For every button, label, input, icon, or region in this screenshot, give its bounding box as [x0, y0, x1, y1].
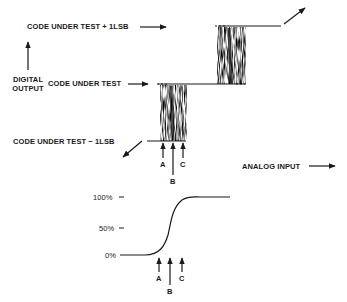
- tick-label-0: 0%: [105, 251, 116, 260]
- y-axis-label: DIGITAL OUTPUT: [11, 75, 45, 93]
- tick-label-100: 100%: [93, 193, 113, 202]
- label-code-minus-1lsb: CODE UNDER TEST − 1LSB: [13, 137, 115, 146]
- marker-a-label: A: [160, 160, 166, 169]
- y-axis-label-line2: OUTPUT: [11, 84, 45, 93]
- continuation-arrow-icon: [284, 8, 305, 24]
- y-axis-label-line1: DIGITAL: [11, 75, 45, 84]
- marker-b-label: B: [170, 177, 176, 186]
- marker-c-label: C: [180, 160, 186, 169]
- bottom-marker-b-label: B: [167, 287, 173, 296]
- bottom-marker-a-label: A: [156, 274, 162, 283]
- lower-transition-noise: [160, 85, 187, 141]
- minus-1lsb-arrow-icon: [123, 141, 142, 157]
- probability-curve: [120, 197, 230, 255]
- upper-transition-noise: [217, 27, 246, 84]
- tick-label-50: 50%: [99, 224, 114, 233]
- bottom-marker-c-label: C: [179, 274, 185, 283]
- x-axis-label: ANALOG INPUT: [242, 162, 300, 171]
- label-code-plus-1lsb: CODE UNDER TEST + 1LSB: [27, 22, 129, 31]
- label-code-under-test: CODE UNDER TEST: [48, 79, 121, 88]
- diagram-canvas: [0, 0, 347, 302]
